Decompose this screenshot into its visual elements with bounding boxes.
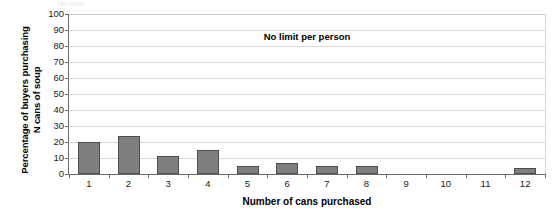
bar-3 (157, 156, 179, 174)
clipped-header-text: No limit (57, 0, 237, 7)
chart-annotation: No limit per person (69, 31, 545, 42)
x-tick-label-11: 11 (481, 179, 491, 189)
x-tick-label-10: 10 (441, 179, 452, 189)
y-tick-label-70: 70 (53, 57, 64, 67)
x-tick-mark-9 (426, 174, 427, 178)
x-tick-mark-12 (545, 174, 546, 178)
x-tick-label-6: 6 (285, 179, 290, 189)
x-tick-mark-3 (188, 174, 189, 178)
x-tick-mark-7 (347, 174, 348, 178)
x-tick-label-12: 12 (520, 179, 531, 189)
x-axis-title: Number of cans purchased (68, 196, 546, 207)
x-tick-mark-6 (307, 174, 308, 178)
x-tick-mark-1 (109, 174, 110, 178)
bar-6 (276, 163, 298, 174)
bar-12 (514, 168, 536, 174)
y-tick-label-90: 90 (53, 25, 64, 35)
x-tick-label-3: 3 (166, 179, 171, 189)
x-tick-mark-11 (505, 174, 506, 178)
y-tick-label-10: 10 (53, 153, 64, 163)
x-tick-mark-0 (69, 174, 70, 178)
y-axis-title-line-2: N cans of soup (30, 13, 42, 188)
x-tick-label-8: 8 (364, 179, 369, 189)
y-axis-title: Percentage of buyers purchasing N cans o… (19, 13, 47, 188)
x-tick-mark-8 (386, 174, 387, 178)
x-tick-mark-4 (228, 174, 229, 178)
plot-area: 0102030405060708090100 123456789101112 N… (68, 14, 546, 175)
bar-1 (78, 142, 100, 174)
x-tick-mark-5 (267, 174, 268, 178)
bar-4 (197, 150, 219, 174)
x-tick-mark-2 (148, 174, 149, 178)
x-tick-label-4: 4 (205, 179, 210, 189)
bar-5 (237, 166, 259, 174)
x-tick-mark-10 (466, 174, 467, 178)
y-tick-label-80: 80 (53, 41, 64, 51)
y-tick-label-100: 100 (48, 9, 64, 19)
x-tick-label-7: 7 (324, 179, 329, 189)
chart-figure: No limit Percentage of buyers purchasing… (0, 0, 553, 219)
bar-7 (316, 166, 338, 174)
x-tick-label-1: 1 (86, 179, 91, 189)
y-tick-label-40: 40 (53, 105, 64, 115)
y-tick-label-30: 30 (53, 121, 64, 131)
x-tick-label-9: 9 (404, 179, 409, 189)
y-tick-label-60: 60 (53, 73, 64, 83)
y-tick-label-50: 50 (53, 89, 64, 99)
x-tick-label-2: 2 (126, 179, 131, 189)
y-axis-title-line-1: Percentage of buyers purchasing (19, 13, 31, 188)
bar-8 (356, 166, 378, 174)
y-tick-label-20: 20 (53, 137, 64, 147)
bar-2 (118, 136, 140, 174)
x-tick-label-5: 5 (245, 179, 250, 189)
y-tick-label-0: 0 (59, 169, 64, 179)
